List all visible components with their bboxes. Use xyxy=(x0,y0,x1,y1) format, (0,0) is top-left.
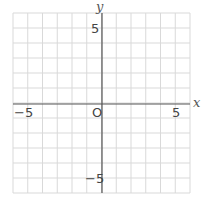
y-tick-label-5: 5 xyxy=(91,21,99,36)
x-tick-label-5: 5 xyxy=(172,105,180,120)
x-axis-label: x xyxy=(193,95,201,110)
x-tick-label-neg5: −5 xyxy=(14,105,33,120)
origin-label: O xyxy=(92,105,102,120)
coordinate-plane: y x 5 −5 −5 5 O xyxy=(0,0,209,203)
y-tick-label-neg5: −5 xyxy=(85,171,104,186)
y-axis-label: y xyxy=(95,0,104,14)
